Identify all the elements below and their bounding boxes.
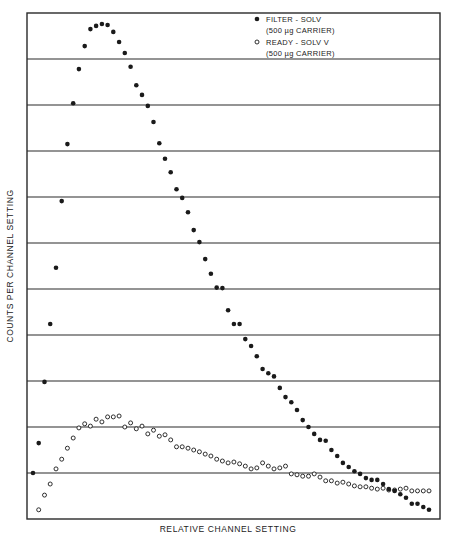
- legend-filled-circle-icon: [255, 17, 260, 22]
- data-point-open: [404, 486, 408, 490]
- data-point-filled: [312, 432, 317, 437]
- y-axis-label: COUNTS PER CHANNEL SETTING: [5, 189, 15, 342]
- data-point-open: [261, 461, 265, 465]
- data-point-filled: [42, 380, 47, 385]
- data-point-open: [226, 461, 230, 465]
- data-point-filled: [111, 30, 116, 35]
- data-point-filled: [220, 286, 225, 291]
- data-point-filled: [59, 199, 64, 204]
- legend-sublabel-filter-solv: (500 µg CARRIER): [266, 26, 335, 35]
- data-point-open: [289, 472, 293, 476]
- data-point-open: [301, 474, 305, 478]
- data-point-filled: [398, 492, 403, 497]
- data-point-filled: [105, 23, 110, 28]
- data-point-filled: [88, 27, 93, 32]
- data-point-open: [88, 424, 92, 428]
- data-point-open: [278, 466, 282, 470]
- data-point-filled: [306, 425, 311, 430]
- data-point-open: [318, 475, 322, 479]
- legend-sublabel-ready-solv-v: (500 µg CARRIER): [266, 49, 335, 58]
- data-point-filled: [232, 322, 237, 327]
- data-point-filled: [346, 465, 351, 470]
- data-point-filled: [427, 508, 432, 513]
- data-point-open: [100, 420, 104, 424]
- data-point-open: [77, 426, 81, 430]
- data-point-filled: [381, 482, 386, 487]
- data-point-open: [117, 414, 121, 418]
- data-point-open: [421, 489, 425, 493]
- data-point-open: [295, 473, 299, 477]
- data-point-open: [364, 485, 368, 489]
- data-point-filled: [289, 400, 294, 405]
- plot-frame: [27, 13, 440, 519]
- data-point-open: [398, 487, 402, 491]
- data-point-open: [140, 424, 144, 428]
- data-point-open: [238, 462, 242, 466]
- data-point-filled: [180, 196, 185, 201]
- data-point-filled: [410, 502, 415, 507]
- data-point-filled: [128, 65, 133, 70]
- legend-label-ready-solv-v: READY - SOLV V: [266, 38, 329, 47]
- data-point-open: [352, 484, 356, 488]
- data-point-filled: [266, 371, 271, 376]
- data-point-filled: [48, 322, 53, 327]
- data-point-open: [134, 427, 138, 431]
- data-point-filled: [272, 374, 277, 379]
- data-point-filled: [71, 101, 76, 106]
- data-point-filled: [134, 83, 139, 88]
- data-point-filled: [323, 439, 328, 444]
- data-point-open: [37, 508, 41, 512]
- data-point-open: [215, 457, 219, 461]
- data-point-filled: [82, 44, 87, 49]
- data-point-open: [375, 487, 379, 491]
- data-point-open: [169, 438, 173, 442]
- data-point-open: [416, 489, 420, 493]
- data-point-filled: [392, 489, 397, 494]
- data-point-open: [203, 452, 207, 456]
- data-point-open: [71, 436, 75, 440]
- data-point-open: [255, 466, 259, 470]
- legend-open-circle-icon: [255, 40, 259, 44]
- data-point-open: [186, 446, 190, 450]
- data-point-open: [329, 479, 333, 483]
- data-point-filled: [146, 104, 151, 109]
- legend: FILTER - SOLV (500 µg CARRIER) READY - S…: [255, 15, 335, 58]
- data-point-filled: [157, 141, 162, 146]
- legend-label-filter-solv: FILTER - SOLV: [266, 15, 321, 24]
- data-point-open: [341, 480, 345, 484]
- data-point-filled: [358, 472, 363, 477]
- data-point-filled: [140, 93, 145, 98]
- data-point-filled: [237, 322, 242, 327]
- data-point-open: [65, 446, 69, 450]
- data-point-filled: [335, 454, 340, 459]
- data-point-open: [410, 489, 414, 493]
- data-point-filled: [283, 395, 288, 400]
- data-point-open: [43, 493, 47, 497]
- data-point-filled: [318, 438, 323, 443]
- data-point-filled: [260, 367, 265, 372]
- x-axis-label: RELATIVE CHANNEL SETTING: [160, 524, 297, 534]
- data-point-open: [192, 448, 196, 452]
- data-point-filled: [186, 210, 191, 215]
- data-point-open: [324, 479, 328, 483]
- data-point-filled: [203, 257, 208, 262]
- data-point-filled: [36, 441, 41, 446]
- data-point-filled: [243, 337, 248, 342]
- series-ready-solv-v: [37, 414, 431, 512]
- data-point-filled: [197, 240, 202, 245]
- data-point-open: [83, 422, 87, 426]
- data-point-open: [232, 460, 236, 464]
- data-point-filled: [341, 461, 346, 466]
- data-point-filled: [31, 471, 36, 476]
- data-point-filled: [151, 120, 156, 125]
- data-point-filled: [387, 487, 392, 492]
- data-point-filled: [300, 418, 305, 423]
- data-point-filled: [352, 469, 357, 474]
- data-point-filled: [226, 308, 231, 313]
- data-point-filled: [375, 478, 380, 483]
- data-point-open: [152, 428, 156, 432]
- series-filter-solv: [31, 22, 432, 512]
- data-point-filled: [77, 67, 82, 72]
- data-point-filled: [191, 228, 196, 233]
- data-point-filled: [209, 272, 214, 277]
